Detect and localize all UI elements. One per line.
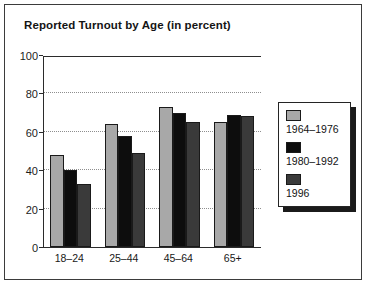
chart-page: Reported Turnout by Age (in percent) 020… [0, 0, 367, 285]
bar [64, 170, 78, 247]
bar [173, 113, 187, 247]
bar-group-2 [105, 57, 146, 247]
bar-group-3 [159, 57, 200, 247]
x-tick-label-2: 25–44 [109, 252, 138, 264]
x-tick-label-3: 45–64 [164, 252, 193, 264]
legend-label-2: 1980–1992 [286, 155, 348, 167]
legend-entry-3: 1996 [286, 174, 348, 199]
bar-group-4 [214, 57, 255, 247]
bar [159, 107, 173, 247]
legend: 1964–19761980–19921996 [278, 102, 351, 207]
plot-area [43, 56, 261, 248]
bar [132, 153, 146, 247]
legend-entry-2: 1980–1992 [286, 142, 348, 167]
y-tick-label-80: 80 [26, 88, 38, 100]
legend-entry-1: 1964–1976 [286, 110, 348, 135]
y-tick-label-40: 40 [26, 165, 38, 177]
bar-group-1 [50, 57, 91, 247]
bar [214, 122, 228, 247]
legend-label-3: 1996 [286, 187, 348, 199]
legend-swatch-1996 [286, 174, 301, 185]
y-tick-label-60: 60 [26, 127, 38, 139]
bar [118, 136, 132, 247]
bars-layer [44, 57, 261, 247]
y-tick-label-100: 100 [20, 50, 38, 62]
legend-swatch-1980-1992 [286, 142, 301, 153]
y-axis-labels: 020406080100 [8, 56, 38, 248]
bar [227, 115, 241, 247]
bar [105, 124, 119, 247]
y-tick-label-20: 20 [26, 204, 38, 216]
x-tick-label-4: 65+ [224, 252, 242, 264]
legend-label-1: 1964–1976 [286, 123, 348, 135]
x-tick-label-1: 18–24 [55, 252, 84, 264]
bar [186, 122, 200, 247]
legend-swatch-1964-1976 [286, 110, 301, 121]
bar [50, 155, 64, 247]
page-title: Reported Turnout by Age (in percent) [24, 19, 231, 31]
bar [77, 184, 91, 247]
bar [241, 116, 255, 247]
y-tick-label-0: 0 [32, 242, 38, 254]
